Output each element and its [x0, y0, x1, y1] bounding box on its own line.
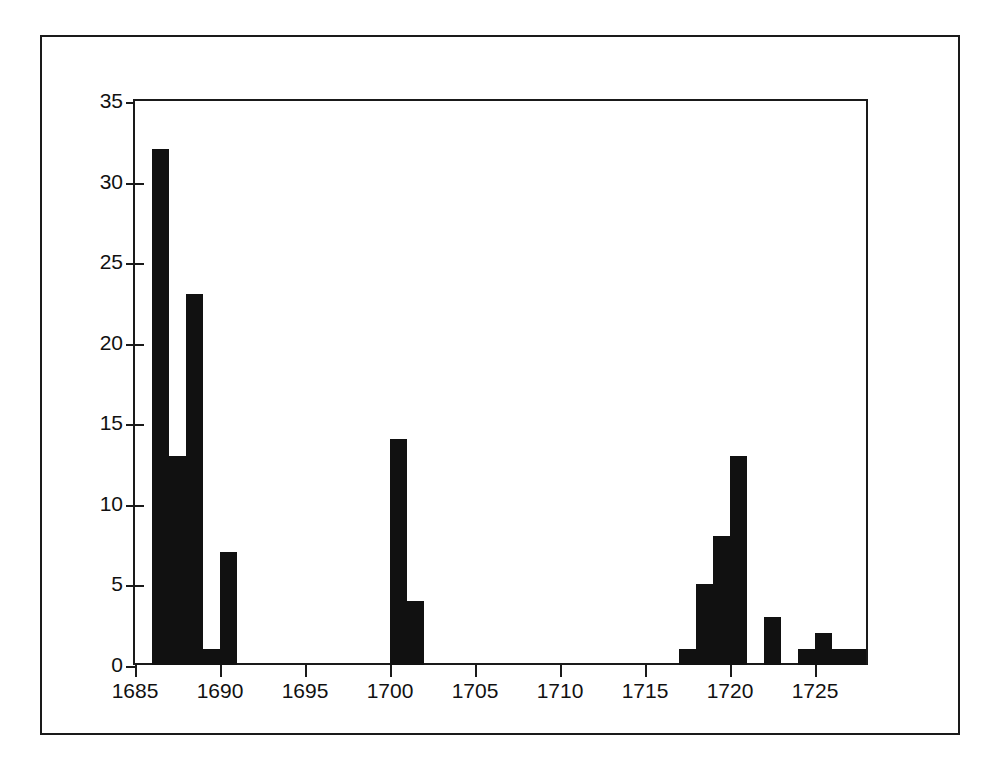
x-axis-tick-label: 1720 [707, 679, 754, 703]
histogram-bar [764, 617, 781, 665]
y-axis-tick [126, 585, 135, 587]
histogram-bar [186, 294, 203, 665]
x-axis-tick-label: 1710 [537, 679, 584, 703]
histogram-bar [798, 649, 815, 665]
x-axis-tick [560, 665, 562, 677]
histogram-bar [220, 552, 237, 665]
histogram-bar [390, 439, 407, 665]
x-axis-tick [730, 665, 732, 677]
histogram-bar [849, 649, 866, 665]
y-axis-tick-label: 25 [100, 250, 123, 274]
y-axis-tick-label: 30 [100, 170, 123, 194]
x-axis-tick [390, 665, 392, 677]
y-axis-tick [126, 424, 135, 426]
x-axis-tick [305, 665, 307, 677]
y-axis-tick-label: 20 [100, 331, 123, 355]
x-axis-tick-label: 1725 [792, 679, 839, 703]
y-axis-tick-label: 15 [100, 411, 123, 435]
x-axis-tick-label: 1705 [452, 679, 499, 703]
y-axis-tick-label: 5 [111, 572, 123, 596]
x-axis-tick-label: 1715 [622, 679, 669, 703]
y-axis-tick [126, 344, 135, 346]
histogram-bar [832, 649, 849, 665]
x-axis-tick [645, 665, 647, 677]
histogram-bar [152, 149, 169, 665]
figure-root: 05101520253035 1685169016951700170517101… [0, 0, 1001, 778]
y-axis-tick-label: 35 [100, 89, 123, 113]
x-axis-tick-label: 1695 [282, 679, 329, 703]
x-axis-ticks [133, 665, 868, 679]
y-axis-tick [126, 102, 135, 104]
y-axis-tick [126, 505, 135, 507]
histogram-bar [730, 456, 747, 665]
histogram-bar [203, 649, 220, 665]
x-axis-tick [475, 665, 477, 677]
y-axis-tick [126, 183, 135, 185]
x-axis-tick-label: 1685 [112, 679, 159, 703]
y-axis-tick-label: 0 [111, 653, 123, 677]
x-axis-tick [220, 665, 222, 677]
histogram-bar [169, 456, 186, 665]
histogram-bar [679, 649, 696, 665]
histogram-bar [713, 536, 730, 665]
x-axis-labels: 168516901695170017051710171517201725 [133, 679, 868, 711]
y-axis-tick [126, 263, 135, 265]
x-axis-tick-label: 1700 [367, 679, 414, 703]
y-axis-labels: 05101520253035 [75, 99, 123, 665]
x-axis-tick [135, 665, 137, 677]
histogram-bar [407, 601, 424, 665]
histogram-bar [815, 633, 832, 665]
y-axis-tick-label: 10 [100, 492, 123, 516]
x-axis-tick-label: 1690 [197, 679, 244, 703]
x-axis-tick [815, 665, 817, 677]
histogram-bar [696, 584, 713, 665]
bars-layer [135, 101, 866, 665]
